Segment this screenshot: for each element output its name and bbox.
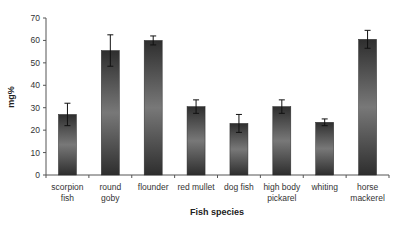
y-tick-label: 10 bbox=[31, 148, 41, 158]
category-label: mackerel bbox=[350, 193, 385, 203]
bar bbox=[359, 30, 377, 175]
bar bbox=[101, 35, 119, 175]
category-label: pickarel bbox=[267, 193, 296, 203]
x-axis-title: Fish species bbox=[190, 207, 244, 217]
category-labels: scorpionfishroundgobyflounderred mulletd… bbox=[51, 182, 385, 203]
category-label: dog fish bbox=[224, 182, 254, 192]
bar-chart: 010203040506070 scorpionfishroundgobyflo… bbox=[0, 0, 402, 227]
y-tick-label: 40 bbox=[31, 80, 41, 90]
category-label: round bbox=[99, 182, 121, 192]
category-label: high body bbox=[263, 182, 301, 192]
category-label: fish bbox=[61, 193, 75, 203]
category-label: goby bbox=[101, 193, 120, 203]
bar bbox=[230, 114, 248, 175]
y-tick-label: 30 bbox=[31, 103, 41, 113]
category-label: whiting bbox=[310, 182, 338, 192]
bar bbox=[187, 100, 205, 175]
y-tick-label: 70 bbox=[31, 13, 41, 23]
category-label: flounder bbox=[138, 182, 169, 192]
category-label: scorpion bbox=[51, 182, 83, 192]
x-axis bbox=[46, 175, 389, 178]
y-tick-label: 60 bbox=[31, 35, 41, 45]
bar bbox=[316, 119, 334, 175]
y-axis: 010203040506070 bbox=[31, 13, 46, 180]
y-tick-label: 50 bbox=[31, 58, 41, 68]
y-axis-title: mg% bbox=[6, 86, 16, 108]
category-label: horse bbox=[357, 182, 379, 192]
y-tick-label: 20 bbox=[31, 125, 41, 135]
bar bbox=[144, 36, 162, 175]
bars bbox=[58, 30, 376, 175]
bar bbox=[273, 100, 291, 175]
bar bbox=[58, 103, 76, 175]
category-label: red mullet bbox=[177, 182, 215, 192]
y-tick-label: 0 bbox=[35, 170, 40, 180]
